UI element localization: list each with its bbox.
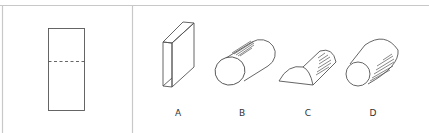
option-c-half-cylinder-shape[interactable]: [279, 50, 336, 85]
option-b-label: B: [232, 108, 252, 118]
option-c-label: C: [298, 108, 318, 118]
option-d-truncated-cone-shape[interactable]: [346, 39, 398, 86]
flat-rectangle-figure: [49, 29, 85, 111]
option-a-label: A: [168, 108, 188, 118]
option-a-box-shape[interactable]: [163, 22, 194, 87]
figure-frame: A B C D: [0, 0, 429, 133]
option-d-label: D: [363, 108, 383, 118]
option-b-cylinder-shape[interactable]: [212, 40, 275, 89]
